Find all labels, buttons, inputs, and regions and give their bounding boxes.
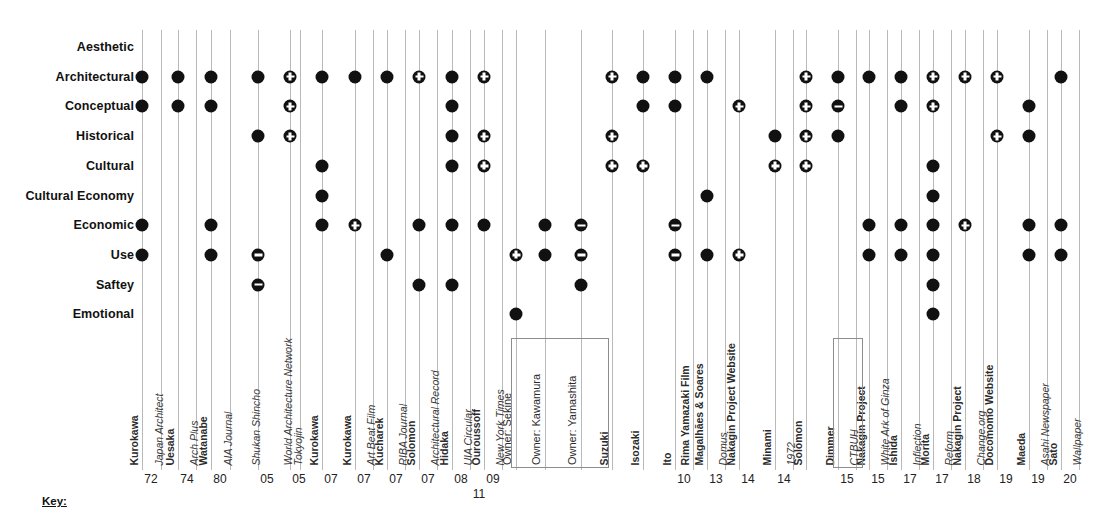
gridline-column bbox=[196, 30, 197, 470]
data-point-filled bbox=[446, 100, 459, 113]
data-point-filled bbox=[927, 219, 940, 232]
data-point-filled bbox=[446, 219, 459, 232]
data-point-plus bbox=[284, 70, 297, 83]
gridline-column bbox=[355, 30, 356, 470]
column-year-label: 05 bbox=[292, 472, 305, 486]
data-point-minus bbox=[832, 100, 845, 113]
data-point-plus bbox=[800, 159, 813, 172]
data-point-filled bbox=[349, 70, 362, 83]
data-point-filled bbox=[446, 130, 459, 143]
gridline-column bbox=[997, 30, 998, 470]
column-person-label: Ito bbox=[661, 452, 672, 465]
column-year-label: 05 bbox=[260, 472, 273, 486]
column-year-label: 17 bbox=[903, 472, 916, 486]
data-point-minus bbox=[669, 248, 682, 261]
data-point-minus bbox=[252, 248, 265, 261]
column-year-label: 20 bbox=[1063, 472, 1076, 486]
gridline-column bbox=[612, 30, 613, 470]
data-point-plus bbox=[606, 70, 619, 83]
data-point-plus bbox=[769, 159, 782, 172]
gridline-column bbox=[470, 30, 471, 470]
column-person-label: Kurokawa bbox=[341, 415, 352, 465]
y-axis-label-conceptual: Conceptual bbox=[65, 99, 134, 113]
gridline-column bbox=[300, 30, 301, 470]
column-source-label: Wallpaper bbox=[1071, 418, 1082, 465]
gridline-column bbox=[419, 30, 420, 470]
data-point-filled bbox=[769, 130, 782, 143]
column-year-label: 19 bbox=[1031, 472, 1044, 486]
data-point-filled bbox=[895, 219, 908, 232]
y-axis-label-emotional: Emotional bbox=[73, 307, 134, 321]
column-year-label: 10 bbox=[677, 472, 690, 486]
column-person-label: Ouroussoff bbox=[470, 408, 481, 465]
column-year-label: 09 bbox=[486, 472, 499, 486]
data-point-minus bbox=[252, 278, 265, 291]
data-point-filled bbox=[316, 189, 329, 202]
data-point-plus bbox=[478, 130, 491, 143]
y-axis-label-use: Use bbox=[111, 248, 134, 262]
data-point-filled bbox=[136, 219, 149, 232]
data-point-filled bbox=[1055, 248, 1068, 261]
data-point-filled bbox=[252, 70, 265, 83]
data-point-filled bbox=[701, 189, 714, 202]
data-point-filled bbox=[136, 248, 149, 261]
column-year-label: 15 bbox=[871, 472, 884, 486]
column-person-label: Magalhães & Soares bbox=[693, 363, 704, 465]
data-point-filled bbox=[172, 100, 185, 113]
y-axis-labels: AestheticArchitecturalConceptualHistoric… bbox=[0, 0, 134, 340]
column-year-label: 80 bbox=[213, 472, 226, 486]
data-point-filled bbox=[205, 100, 218, 113]
column-year-label: 08 bbox=[454, 472, 467, 486]
data-point-filled bbox=[205, 248, 218, 261]
data-point-filled bbox=[637, 100, 650, 113]
gridline-column bbox=[322, 30, 323, 470]
data-point-plus bbox=[927, 100, 940, 113]
y-axis-label-architectural: Architectural bbox=[56, 70, 134, 84]
column-person-label: Minami bbox=[761, 429, 772, 465]
data-point-minus bbox=[575, 219, 588, 232]
plot-area: KurokawaJapan ArchitectUesakaArch PlusWa… bbox=[134, 0, 1105, 519]
column-source-label: Japan Architect bbox=[153, 393, 164, 465]
data-point-filled bbox=[832, 130, 845, 143]
gridline-column bbox=[793, 30, 794, 470]
data-point-filled bbox=[1055, 70, 1068, 83]
data-point-plus bbox=[733, 248, 746, 261]
column-year-label: 07 bbox=[357, 472, 370, 486]
data-point-filled bbox=[136, 70, 149, 83]
data-point-filled bbox=[478, 219, 491, 232]
data-point-filled bbox=[172, 70, 185, 83]
group-box-dimmer-group bbox=[833, 338, 863, 468]
column-person-label: Uesaka bbox=[164, 428, 175, 465]
data-point-filled bbox=[539, 219, 552, 232]
data-point-plus bbox=[284, 130, 297, 143]
data-point-filled bbox=[927, 159, 940, 172]
column-person-label: Kurokawa bbox=[128, 415, 139, 465]
column-source-label: AIA Journal bbox=[222, 411, 233, 465]
column-source-label: Tokyojin bbox=[292, 427, 303, 465]
data-point-plus bbox=[991, 70, 1004, 83]
data-point-plus bbox=[927, 70, 940, 83]
gridline-column bbox=[806, 30, 807, 470]
data-point-filled bbox=[539, 248, 552, 261]
key-label: Key: bbox=[42, 495, 67, 507]
data-point-filled bbox=[205, 70, 218, 83]
data-point-plus bbox=[349, 219, 362, 232]
column-person-label: Solomon bbox=[405, 420, 416, 465]
column-year-label: 18 bbox=[967, 472, 980, 486]
column-year-label: 07 bbox=[324, 472, 337, 486]
data-point-filled bbox=[252, 130, 265, 143]
gridline-column bbox=[230, 30, 231, 470]
data-point-filled bbox=[701, 248, 714, 261]
data-point-filled bbox=[863, 219, 876, 232]
column-person-label: Isozaki bbox=[629, 430, 640, 465]
data-point-plus bbox=[478, 159, 491, 172]
data-point-filled bbox=[205, 219, 218, 232]
data-point-filled bbox=[316, 159, 329, 172]
data-point-plus bbox=[800, 100, 813, 113]
column-year-label: 15 bbox=[840, 472, 853, 486]
data-point-filled bbox=[701, 70, 714, 83]
column-person-label: Docomomo Website bbox=[983, 364, 994, 465]
data-point-filled bbox=[446, 159, 459, 172]
data-point-filled bbox=[927, 248, 940, 261]
column-person-label: Maeda bbox=[1015, 432, 1026, 465]
